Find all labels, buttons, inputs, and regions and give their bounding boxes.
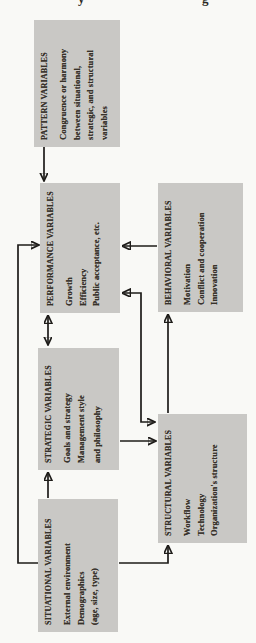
node-pattern-variables: PATTERN VARIABLES Congruence or harmony … <box>34 20 120 147</box>
node-line: Efficiency <box>77 185 91 306</box>
node-line: Organization's structure <box>208 416 222 536</box>
node-title: STRUCTURAL VARIABLES <box>163 416 175 536</box>
node-situational-variables: SITUATIONAL VARIABLES External environme… <box>38 499 118 632</box>
variables-flow-diagram: SITUATIONAL VARIABLES External environme… <box>0 0 256 643</box>
node-strategic-variables: STRATEGIC VARIABLES Goals and strategy M… <box>38 348 119 470</box>
node-behavioral-variables: BEHAVIORAL VARIABLES Motivation Conflict… <box>158 183 243 312</box>
node-structural-variables: STRUCTURAL VARIABLES Workflow Technology… <box>158 414 247 543</box>
node-line: Innovation <box>208 185 222 305</box>
node-line: variables <box>98 22 112 140</box>
node-line: and philosophy <box>91 350 105 463</box>
node-line: External environment <box>61 501 75 625</box>
node-line: Growth <box>63 185 77 306</box>
node-line: Workflow <box>181 416 195 536</box>
node-line: strategic, and structural <box>84 22 98 140</box>
node-line: Motivation <box>181 185 195 305</box>
node-line: Management style <box>75 350 89 463</box>
node-line: Goals and strategy <box>61 350 75 463</box>
node-title: SITUATIONAL VARIABLES <box>43 501 55 625</box>
node-title: STRATEGIC VARIABLES <box>43 350 55 463</box>
scanned-page: y g SITUATIONAL VARIABLES External envir… <box>0 0 256 643</box>
node-title: PATTERN VARIABLES <box>39 22 51 140</box>
node-line: Public acceptance, etc. <box>90 185 104 306</box>
node-line: (age, size, type) <box>88 501 102 625</box>
node-performance-variables: PERFORMANCE VARIABLES Growth Efficiency … <box>40 183 120 313</box>
node-title: PERFORMANCE VARIABLES <box>45 185 57 306</box>
arrow-situational-to-structural <box>119 547 168 563</box>
node-line: between situational, <box>71 22 85 140</box>
arrow-situational-to-performance <box>18 245 38 563</box>
node-line: Congruence or harmony <box>57 22 71 140</box>
node-title: BEHAVIORAL VARIABLES <box>163 185 175 305</box>
arrow-structural-performance-two-way <box>124 293 153 422</box>
node-line: Conflict and cooperation <box>195 185 209 305</box>
node-line: Technology <box>195 416 209 536</box>
node-line: Demographics <box>75 501 89 625</box>
